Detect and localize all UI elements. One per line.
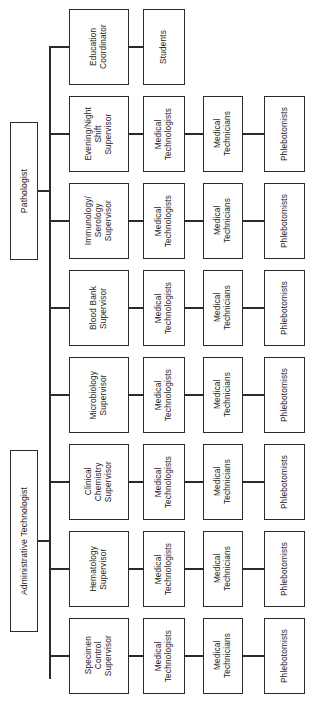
- row-connector: [49, 481, 69, 483]
- staff-connector: [129, 46, 143, 48]
- row-connector: [49, 220, 69, 222]
- node-label: Medical Technicians: [213, 372, 233, 417]
- row-connector: [49, 394, 69, 396]
- staff-connector: [185, 481, 203, 483]
- node-label: Medical Technologists: [154, 630, 174, 682]
- node-medical-technicians[interactable]: Medical Technicians: [203, 183, 243, 259]
- node-label: Evening/Night Shift Supervisor: [84, 107, 113, 161]
- node-medical-technologists[interactable]: Medical Technologists: [143, 357, 185, 433]
- node-label: Medical Technologists: [154, 282, 174, 334]
- node-pathologist[interactable]: Pathologist: [10, 122, 38, 260]
- staff-connector: [243, 133, 264, 135]
- node-label: Medical Technicians: [213, 459, 233, 504]
- staff-connector: [129, 394, 143, 396]
- node-phlebotomists[interactable]: Phlebotomists: [264, 618, 305, 694]
- node-medical-technicians[interactable]: Medical Technicians: [203, 270, 243, 346]
- staff-connector: [243, 568, 264, 570]
- node-label: Administrative Technologist: [19, 487, 29, 595]
- node-medical-technicians[interactable]: Medical Technicians: [203, 444, 243, 520]
- row-connector: [49, 655, 69, 657]
- staff-connector: [129, 655, 143, 657]
- node-medical-technologists[interactable]: Medical Technologists: [143, 270, 185, 346]
- node-phlebotomists[interactable]: Phlebotomists: [264, 270, 305, 346]
- node-phlebotomists[interactable]: Phlebotomists: [264, 531, 305, 607]
- node-label: Pathologist: [19, 169, 29, 213]
- staff-connector: [243, 307, 264, 309]
- node-specimen-control-supervisor[interactable]: Specimen Control Supervisor: [69, 618, 129, 694]
- node-microbiology-supervisor[interactable]: Microbiology Supervisor: [69, 357, 129, 433]
- staff-connector: [129, 568, 143, 570]
- node-medical-technicians[interactable]: Medical Technicians: [203, 96, 243, 172]
- node-label: Phlebotomists: [280, 542, 290, 596]
- node-label: Medical Technologists: [154, 195, 174, 247]
- node-medical-technicians[interactable]: Medical Technicians: [203, 531, 243, 607]
- node-medical-technologists[interactable]: Medical Technologists: [143, 618, 185, 694]
- node-label: Hematology Supervisor: [89, 546, 109, 592]
- node-phlebotomists[interactable]: Phlebotomists: [264, 96, 305, 172]
- node-blood-bank-supervisor[interactable]: Blood Bank Supervisor: [69, 270, 129, 346]
- node-label: Medical Technicians: [213, 285, 233, 330]
- node-evening-night-shift-supervisor[interactable]: Evening/Night Shift Supervisor: [69, 96, 129, 172]
- node-label: Medical Technologists: [154, 108, 174, 160]
- node-medical-technicians[interactable]: Medical Technicians: [203, 618, 243, 694]
- pathologist-stub: [38, 190, 50, 192]
- node-label: Microbiology Supervisor: [89, 371, 109, 419]
- node-label: Medical Technicians: [213, 111, 233, 156]
- node-immunology-serology-supervisor[interactable]: Immunology/ Serology Supervisor: [69, 183, 129, 259]
- administrative-technologist-stub: [38, 540, 50, 542]
- node-students[interactable]: Students: [143, 9, 185, 85]
- node-label: Immunology/ Serology Supervisor: [84, 196, 113, 245]
- staff-connector: [185, 394, 203, 396]
- row-connector: [49, 568, 69, 570]
- node-label: Medical Technologists: [154, 543, 174, 595]
- node-medical-technologists[interactable]: Medical Technologists: [143, 531, 185, 607]
- node-label: Medical Technicians: [213, 633, 233, 678]
- staff-connector: [243, 394, 264, 396]
- node-administrative-technologist[interactable]: Administrative Technologist: [10, 450, 38, 632]
- node-medical-technologists[interactable]: Medical Technologists: [143, 183, 185, 259]
- node-label: Medical Technologists: [154, 369, 174, 421]
- node-label: Specimen Control Supervisor: [84, 635, 113, 676]
- row-connector: [49, 46, 69, 48]
- row-connector: [49, 133, 69, 135]
- org-chart: Pathologist Administrative Technologist …: [0, 0, 320, 727]
- node-label: Clinical Chemistry Supervisor: [84, 461, 113, 502]
- staff-connector: [243, 481, 264, 483]
- node-medical-technologists[interactable]: Medical Technologists: [143, 96, 185, 172]
- node-label: Students: [159, 30, 169, 64]
- node-label: Medical Technicians: [213, 198, 233, 243]
- node-label: Medical Technicians: [213, 546, 233, 591]
- node-medical-technologists[interactable]: Medical Technologists: [143, 444, 185, 520]
- node-phlebotomists[interactable]: Phlebotomists: [264, 183, 305, 259]
- node-label: Phlebotomists: [280, 629, 290, 683]
- node-label: Phlebotomists: [280, 455, 290, 509]
- staff-connector: [185, 307, 203, 309]
- node-label: Phlebotomists: [280, 368, 290, 422]
- node-phlebotomists[interactable]: Phlebotomists: [264, 357, 305, 433]
- staff-connector: [243, 220, 264, 222]
- node-label: Medical Technologists: [154, 456, 174, 508]
- node-label: Phlebotomists: [280, 194, 290, 248]
- node-hematology-supervisor[interactable]: Hematology Supervisor: [69, 531, 129, 607]
- node-clinical-chemistry-supervisor[interactable]: Clinical Chemistry Supervisor: [69, 444, 129, 520]
- staff-connector: [243, 655, 264, 657]
- staff-connector: [185, 655, 203, 657]
- staff-connector: [185, 220, 203, 222]
- node-phlebotomists[interactable]: Phlebotomists: [264, 444, 305, 520]
- node-label: Phlebotomists: [280, 281, 290, 335]
- staff-connector: [129, 220, 143, 222]
- staff-connector: [129, 133, 143, 135]
- node-education-coordinator[interactable]: Education Coordinator: [69, 9, 129, 85]
- staff-connector: [129, 307, 143, 309]
- node-label: Phlebotomists: [280, 107, 290, 161]
- row-connector: [49, 307, 69, 309]
- staff-connector: [129, 481, 143, 483]
- node-medical-technicians[interactable]: Medical Technicians: [203, 357, 243, 433]
- staff-connector: [185, 133, 203, 135]
- node-label: Blood Bank Supervisor: [89, 286, 109, 330]
- node-label: Education Coordinator: [89, 24, 109, 69]
- staff-connector: [185, 568, 203, 570]
- spine-connector: [49, 47, 51, 679]
